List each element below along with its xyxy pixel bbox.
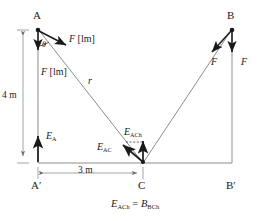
field-label-e-ach: EACh — [124, 127, 142, 137]
vector-f-diagonal-at-b — [212, 31, 231, 52]
dimension-label-height: 4 m — [2, 91, 17, 101]
force-label-a-diagonal: F [lm] — [69, 34, 95, 44]
node-dots — [36, 28, 235, 164]
vectors-at-b — [212, 30, 232, 52]
physics-vector-diagram: A B A′ C B′ θ F [lm] F [lm] F F r EA EAC… — [0, 0, 263, 221]
force-unit: [lm] — [78, 33, 95, 44]
vector-e-ac-line — [123, 145, 143, 162]
node-label-b: B — [227, 10, 234, 21]
caption-equation: EACh = BBCh — [111, 199, 159, 210]
caption-rhs-subscript: BCh — [147, 203, 159, 210]
force-label-a-vertical: F [lm] — [41, 67, 67, 77]
force-label-b-vertical: F — [241, 57, 247, 67]
dimension-height — [17, 30, 29, 163]
angle-label-theta: θ — [42, 41, 46, 49]
node-label-c: C — [138, 180, 145, 191]
field-subscript: A — [52, 135, 56, 142]
force-label-b-diagonal: F — [211, 57, 217, 67]
node-label-b-prime: B′ — [226, 180, 236, 191]
dimension-label-base: 3 m — [78, 166, 93, 176]
force-unit: [lm] — [50, 66, 67, 77]
radius-label: r — [88, 76, 92, 86]
vectors-at-c — [123, 141, 143, 162]
frame-lines — [38, 29, 232, 163]
field-subscript: AC — [103, 146, 112, 153]
node-label-a: A — [33, 10, 41, 21]
node-label-a-prime: A′ — [31, 180, 41, 191]
field-label-e-a: EA — [46, 131, 57, 141]
field-label-e-ac: EAC — [97, 142, 112, 152]
edge-b-c — [143, 29, 232, 163]
field-subscript: ACh — [130, 131, 142, 138]
edge-a-c — [38, 29, 143, 163]
caption-lhs-subscript: ACh — [117, 203, 129, 210]
